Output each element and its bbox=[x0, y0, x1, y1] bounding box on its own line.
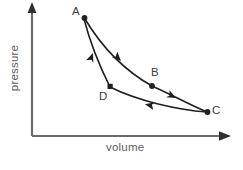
y-axis-arrow-icon bbox=[28, 2, 37, 13]
point-b-marker[interactable] bbox=[149, 83, 155, 89]
point-label-d: D bbox=[99, 90, 107, 102]
point-label-a: A bbox=[72, 5, 80, 17]
curve-c-to-d bbox=[110, 87, 207, 112]
y-axis-label: pressure bbox=[8, 37, 20, 99]
point-d-marker[interactable] bbox=[108, 84, 113, 89]
pv-diagram-figure: pressure volume A B C D bbox=[0, 0, 243, 170]
x-axis-arrow-icon bbox=[219, 131, 231, 141]
x-axis-label: volume bbox=[106, 141, 144, 153]
point-label-b: B bbox=[151, 66, 159, 78]
point-a-marker[interactable] bbox=[82, 15, 88, 21]
curve-d-to-a bbox=[84, 19, 110, 87]
arrow-a-to-b-icon bbox=[111, 52, 123, 64]
point-c-marker[interactable] bbox=[205, 109, 211, 115]
arrow-b-to-c-icon bbox=[165, 90, 177, 102]
point-label-c: C bbox=[212, 104, 220, 116]
